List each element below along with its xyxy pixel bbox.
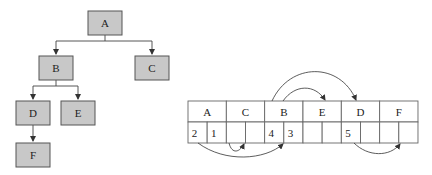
- header-label: A: [203, 106, 211, 118]
- table-subcell: 1: [207, 122, 226, 143]
- edge-b-e: [56, 86, 78, 99]
- table-subcell: 2: [188, 122, 207, 143]
- table-header-f: F: [380, 101, 418, 122]
- header-label: F: [396, 106, 402, 118]
- node-label: C: [148, 62, 155, 74]
- header-label: C: [242, 106, 249, 118]
- subcell-value: 3: [288, 127, 294, 139]
- table-header-a: A: [188, 101, 226, 122]
- tree-node-e: E: [61, 101, 95, 125]
- arrow-a-to-b: [198, 143, 283, 157]
- child-sibling-table: A21CB43ED5F: [188, 101, 418, 143]
- table-header-d: D: [341, 101, 379, 122]
- table-subcell: [226, 122, 245, 143]
- arrow-a-to-c: [229, 143, 244, 151]
- table-subcell: [245, 122, 264, 143]
- edge-a-b: [56, 35, 105, 54]
- arrow-d-to-f: [354, 143, 400, 154]
- tree-node-c: C: [135, 56, 169, 80]
- tree-node-a: A: [88, 11, 122, 35]
- table-header-c: C: [226, 101, 264, 122]
- header-label: D: [357, 106, 365, 118]
- table-header-e: E: [303, 101, 341, 122]
- node-label: E: [75, 107, 82, 119]
- arrow-b-to-e: [283, 88, 325, 101]
- header-label: B: [280, 106, 287, 118]
- edge-a-c: [105, 41, 152, 54]
- table-subcell: [303, 122, 322, 143]
- table-header-b: B: [265, 101, 303, 122]
- subcell-value: 5: [345, 127, 351, 139]
- table-subcell: [399, 122, 418, 143]
- node-label: A: [101, 17, 109, 29]
- tree-node-b: B: [39, 56, 73, 80]
- table-subcell: [380, 122, 399, 143]
- subcell-value: 4: [268, 127, 274, 139]
- tree-nodes: ABCDEF: [16, 11, 169, 167]
- subcell-value: 1: [211, 127, 217, 139]
- subcell-value: 2: [192, 127, 198, 139]
- edge-b-d: [33, 80, 56, 99]
- header-label: E: [319, 106, 326, 118]
- node-label: D: [29, 107, 37, 119]
- table-subcell: 3: [284, 122, 303, 143]
- node-label: B: [52, 62, 59, 74]
- arrow-b-to-d: [272, 72, 356, 101]
- table-subcell: [322, 122, 341, 143]
- table-subcell: 5: [341, 122, 360, 143]
- node-label: F: [30, 149, 36, 161]
- diagram-canvas: ABCDEF A21CB43ED5F: [0, 0, 432, 175]
- tree-node-f: F: [16, 143, 50, 167]
- table-subcell: 4: [265, 122, 284, 143]
- table-subcell: [360, 122, 379, 143]
- tree-node-d: D: [16, 101, 50, 125]
